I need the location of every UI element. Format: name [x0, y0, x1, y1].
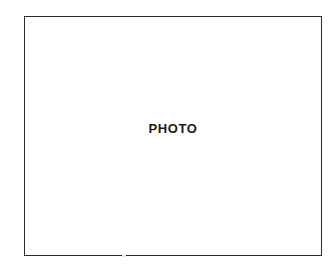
photo-placeholder-label: PHOTO	[25, 121, 321, 137]
frame-bottom-gap	[122, 255, 126, 257]
photo-placeholder-frame: PHOTO	[24, 16, 322, 256]
page-root: PHOTO	[0, 0, 332, 271]
